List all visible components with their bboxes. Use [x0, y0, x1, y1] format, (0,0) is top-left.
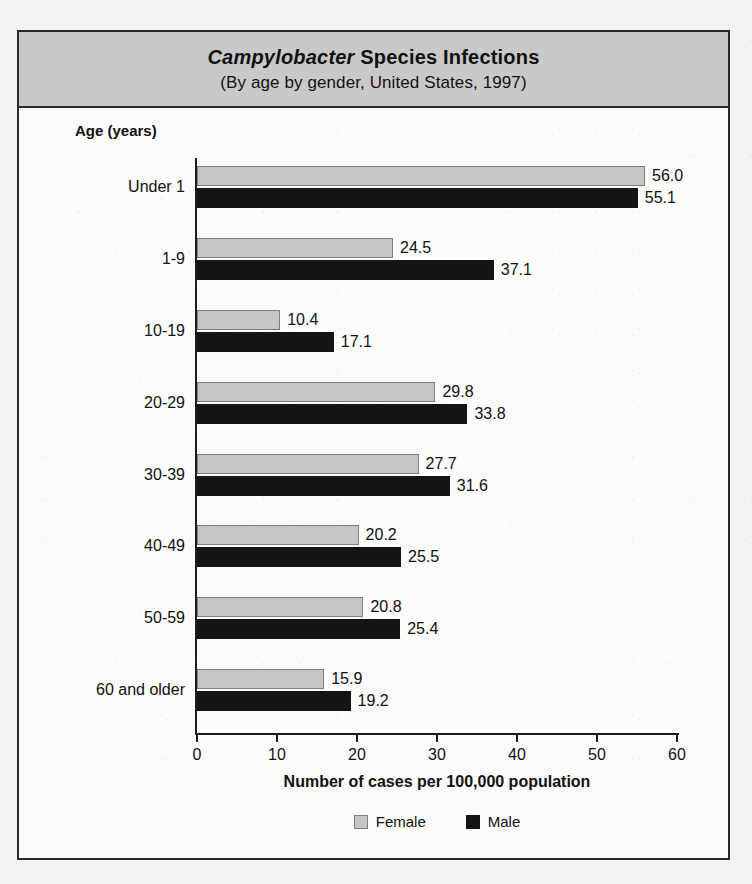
- bar-value-label: 10.4: [287, 310, 318, 330]
- bar-female: [197, 597, 363, 617]
- legend-item-female: Female: [354, 813, 426, 830]
- bar-value-label: 33.8: [474, 404, 505, 424]
- bar-female: [197, 382, 435, 402]
- bar-female: [197, 669, 324, 689]
- bar-male: [197, 619, 400, 639]
- chart-subtitle: (By age by gender, United States, 1997): [220, 73, 526, 93]
- chart-legend: Female Male: [197, 813, 677, 830]
- bar-male: [197, 691, 351, 711]
- x-tick-label: 20: [348, 746, 366, 764]
- female-swatch-icon: [354, 815, 368, 829]
- bar-value-label: 20.8: [370, 597, 401, 617]
- bar-value-label: 25.4: [407, 619, 438, 639]
- bar-value-label: 25.5: [408, 547, 439, 567]
- x-tick-label: 40: [508, 746, 526, 764]
- x-tick-mark: [196, 733, 198, 742]
- x-tick-mark: [276, 733, 278, 742]
- y-axis-header: Age (years): [75, 122, 157, 139]
- x-tick-label: 50: [588, 746, 606, 764]
- bar-value-label: 19.2: [358, 691, 389, 711]
- bar-value-label: 29.8: [442, 382, 473, 402]
- category-label: 60 and older: [96, 679, 185, 701]
- bar-female: [197, 166, 645, 186]
- bar-value-label: 17.1: [341, 332, 372, 352]
- bar-group: 20-2929.833.8: [197, 382, 677, 426]
- x-axis-title: Number of cases per 100,000 population: [197, 773, 677, 791]
- x-tick-mark: [436, 733, 438, 742]
- bar-value-label: 31.6: [457, 476, 488, 496]
- bar-group: 30-3927.731.6: [197, 454, 677, 498]
- chart-title: Campylobacter Species Infections: [207, 46, 539, 69]
- bar-group: 50-5920.825.4: [197, 597, 677, 641]
- legend-label-male: Male: [488, 813, 521, 830]
- bar-male: [197, 476, 450, 496]
- plot-area: 0102030405060 Under 156.055.11-924.537.1…: [197, 158, 677, 733]
- x-tick-label: 10: [268, 746, 286, 764]
- title-banner: Campylobacter Species Infections (By age…: [19, 32, 728, 108]
- category-label: 50-59: [144, 607, 185, 629]
- bar-female: [197, 525, 359, 545]
- bar-male: [197, 260, 494, 280]
- bar-value-label: 55.1: [645, 188, 676, 208]
- male-swatch-icon: [466, 815, 480, 829]
- bar-female: [197, 454, 419, 474]
- bar-group: 40-4920.225.5: [197, 525, 677, 569]
- x-tick-mark: [516, 733, 518, 742]
- bar-female: [197, 238, 393, 258]
- x-tick-mark: [676, 733, 678, 742]
- x-tick-label: 0: [193, 746, 202, 764]
- bar-value-label: 15.9: [331, 669, 362, 689]
- bar-group: Under 156.055.1: [197, 166, 677, 210]
- bar-male: [197, 188, 638, 208]
- category-label: Under 1: [128, 176, 185, 198]
- category-label: 40-49: [144, 535, 185, 557]
- category-label: 10-19: [144, 320, 185, 342]
- category-label: 20-29: [144, 392, 185, 414]
- plot-region: Age (years) 0102030405060 Under 156.055.…: [19, 110, 728, 858]
- bar-value-label: 56.0: [652, 166, 683, 186]
- category-label: 1-9: [162, 248, 185, 270]
- bar-female: [197, 310, 280, 330]
- bar-group: 1-924.537.1: [197, 238, 677, 282]
- bar-value-label: 24.5: [400, 238, 431, 258]
- bar-male: [197, 404, 467, 424]
- bar-male: [197, 547, 401, 567]
- bar-group: 10-1910.417.1: [197, 310, 677, 354]
- x-tick-label: 30: [428, 746, 446, 764]
- chart-title-species: Campylobacter: [207, 46, 354, 68]
- legend-item-male: Male: [466, 813, 521, 830]
- chart-title-rest: Species Infections: [355, 46, 540, 68]
- legend-label-female: Female: [376, 813, 426, 830]
- bar-value-label: 20.2: [366, 525, 397, 545]
- x-tick-mark: [596, 733, 598, 742]
- x-tick-mark: [356, 733, 358, 742]
- bar-value-label: 27.7: [426, 454, 457, 474]
- bar-value-label: 37.1: [501, 260, 532, 280]
- bar-group: 60 and older15.919.2: [197, 669, 677, 713]
- bar-male: [197, 332, 334, 352]
- figure-frame: Campylobacter Species Infections (By age…: [17, 30, 730, 860]
- category-label: 30-39: [144, 464, 185, 486]
- x-tick-label: 60: [668, 746, 686, 764]
